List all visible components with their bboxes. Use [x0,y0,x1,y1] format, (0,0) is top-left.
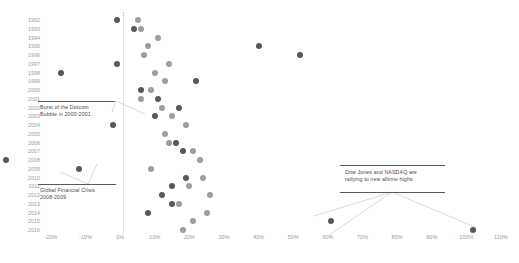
data-point [183,175,189,181]
y-axis-tick-1998: 1998 [14,70,40,76]
y-axis-tick-2007: 2007 [14,148,40,154]
data-point [114,61,120,67]
data-point [162,78,168,84]
y-axis-tick-2003: 2003 [14,113,40,119]
data-point [180,148,186,154]
data-point [141,52,147,58]
data-point [197,157,203,163]
data-point [152,70,158,76]
data-point [200,175,206,181]
data-point [138,96,144,102]
annotation-dotcom-bubble: Burst of the Dotcom Bubble in 2000-2001 [40,102,130,118]
y-axis-tick-2009: 2009 [14,166,40,172]
data-point [76,166,82,172]
data-point [169,183,175,189]
y-axis-tick-2015: 2015 [14,218,40,224]
data-point [173,140,179,146]
data-point [166,140,172,146]
zero-reference-line [123,12,124,234]
data-point [166,61,172,67]
data-point [207,192,213,198]
scatter-chart: 1992199319941995199619971998199920002001… [0,0,519,263]
data-point [148,87,154,93]
data-point [204,210,210,216]
data-point [155,96,161,102]
data-point [145,210,151,216]
annotation-rally-alltime-highs: Dow Jones and NASDAQ are rallying to new… [345,167,455,183]
x-axis-tick-110pct: 110% [481,234,519,240]
data-point [190,148,196,154]
y-axis-tick-2004: 2004 [14,122,40,128]
y-axis-tick-2010: 2010 [14,175,40,181]
data-point [186,183,192,189]
rally-annotation-rule-bottom [340,192,445,193]
plot-area: 1992199319941995199619971998199920002001… [0,0,519,263]
data-point [183,122,189,128]
y-axis-tick-2005: 2005 [14,131,40,137]
y-axis-tick-2001: 2001 [14,96,40,102]
data-point [152,113,158,119]
data-point [131,26,137,32]
data-point [162,131,168,137]
y-axis-tick-2016: 2016 [14,227,40,233]
data-point [159,192,165,198]
annotation-global-financial-crisis: Global Financial Crisis 2008-2009 [40,185,135,201]
y-axis-tick-1996: 1996 [14,52,40,58]
data-point [180,227,186,233]
data-point [58,70,64,76]
data-point [176,105,182,111]
annotation-leader-lines [0,0,519,263]
y-axis-tick-1992: 1992 [14,17,40,23]
y-axis-tick-2012: 2012 [14,192,40,198]
rally-annotation-rule-top [340,165,445,166]
data-point [3,157,9,163]
y-axis-tick-2000: 2000 [14,87,40,93]
data-point [148,166,154,172]
data-point [193,78,199,84]
y-axis-tick-1994: 1994 [14,35,40,41]
y-axis-tick-1997: 1997 [14,61,40,67]
data-point [328,218,334,224]
data-point [135,17,141,23]
y-axis-year-labels: 1992199319941995199619971998199920002001… [14,0,40,263]
data-point [297,52,303,58]
data-point [159,105,165,111]
y-axis-tick-2006: 2006 [14,140,40,146]
data-point [190,218,196,224]
y-axis-tick-1999: 1999 [14,78,40,84]
data-point [176,201,182,207]
data-point [155,35,161,41]
data-point [169,113,175,119]
data-point [138,26,144,32]
y-axis-tick-1995: 1995 [14,43,40,49]
data-point [114,17,120,23]
data-point [256,43,262,49]
y-axis-tick-1993: 1993 [14,26,40,32]
data-point [470,227,476,233]
y-axis-tick-2008: 2008 [14,157,40,163]
data-point [138,87,144,93]
y-axis-tick-2011: 2011 [14,183,40,189]
data-point [145,43,151,49]
data-point [169,201,175,207]
y-axis-tick-2002: 2002 [14,105,40,111]
y-axis-tick-2013: 2013 [14,201,40,207]
y-axis-tick-2014: 2014 [14,210,40,216]
data-point [110,122,116,128]
